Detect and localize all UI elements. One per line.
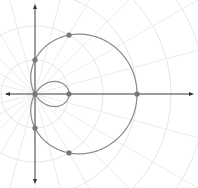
x-axis-right-arrow-icon	[189, 92, 194, 96]
y-axis-bottom-arrow-icon	[33, 179, 37, 184]
curve-point	[32, 57, 37, 62]
polar-graph	[0, 0, 198, 188]
curve-point	[32, 91, 37, 96]
grid-ray	[0, 0, 35, 94]
grid-ray	[0, 94, 35, 188]
grid-ray	[0, 94, 35, 188]
grid-ray	[35, 94, 113, 188]
grid-ray	[0, 0, 35, 94]
grid-ray	[35, 0, 113, 94]
grid-ray	[35, 0, 198, 94]
curve-point	[134, 91, 139, 96]
y-axis-top-arrow-icon	[33, 4, 37, 9]
curve-point	[66, 150, 71, 155]
curve-point	[32, 125, 37, 130]
grid-ray	[0, 0, 35, 94]
grid-ray	[0, 94, 35, 188]
curve-point	[66, 33, 71, 38]
x-axis-left-arrow-icon	[5, 92, 10, 96]
curve-point	[66, 91, 71, 96]
grid-ray	[0, 0, 35, 94]
grid-ray	[35, 94, 198, 188]
grid-ray	[0, 94, 35, 188]
